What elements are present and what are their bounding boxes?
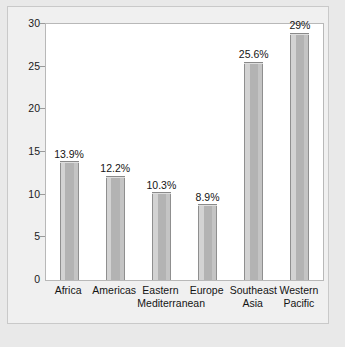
x-axis-category-label-line1: Eastern — [142, 284, 178, 296]
bar-body — [198, 204, 217, 280]
x-axis-category-label-line2: Asia — [230, 297, 276, 310]
x-axis-category-labels: AfricaAmericasEasternMediterraneanEurope… — [45, 284, 324, 324]
x-axis-category-label: Europe — [184, 284, 230, 297]
bar-value-label: 8.9% — [196, 192, 220, 203]
x-axis-category-label-line1: Western — [279, 284, 318, 296]
bar: 29% — [290, 33, 309, 280]
x-axis-category-label-line2: Pacific — [276, 297, 322, 310]
bar-facet-right — [166, 192, 171, 280]
bar-value-label: 25.6% — [239, 49, 269, 60]
bar-facet-mid — [250, 62, 258, 280]
x-axis-category-label: Africa — [45, 284, 91, 297]
bar-body — [152, 192, 171, 280]
figure-frame: 051015202530 13.9%12.2%10.3%8.9%25.6%29%… — [7, 6, 329, 324]
bar-facet-right — [120, 176, 125, 280]
bar-top-cap — [290, 33, 309, 35]
y-axis-tick-labels: 051015202530 — [10, 23, 40, 281]
bar-facet-mid — [296, 33, 304, 280]
bar-value-label: 12.2% — [100, 163, 130, 174]
bar: 25.6% — [244, 62, 263, 280]
bar-facet-mid — [158, 192, 166, 280]
chart-figure: 051015202530 13.9%12.2%10.3%8.9%25.6%29%… — [0, 0, 345, 347]
x-axis-category-label: WesternPacific — [276, 284, 322, 309]
x-axis-category-label: SoutheastAsia — [230, 284, 276, 309]
x-axis-category-label-line1: Africa — [55, 284, 82, 296]
bars-layer: 13.9%12.2%10.3%8.9%25.6%29% — [46, 24, 323, 280]
x-axis-category-label-line1: Europe — [190, 284, 224, 296]
bar-top-cap — [244, 62, 263, 64]
bar-body — [290, 33, 309, 280]
bar: 10.3% — [152, 192, 171, 280]
x-axis-category-label-line1: Americas — [92, 284, 136, 296]
bar-top-cap — [152, 192, 171, 194]
bar-top-cap — [60, 161, 79, 163]
bar-facet-mid — [65, 161, 73, 280]
bar-facet-mid — [111, 176, 119, 280]
bar-body — [244, 62, 263, 280]
bar-top-cap — [198, 204, 217, 206]
bar-top-cap — [106, 176, 125, 178]
plot-area: 13.9%12.2%10.3%8.9%25.6%29% — [45, 23, 324, 281]
bar-value-label: 10.3% — [147, 180, 177, 191]
bar: 12.2% — [106, 176, 125, 280]
bar-value-label: 13.9% — [54, 149, 84, 160]
bar-body — [106, 176, 125, 280]
x-axis-category-label-line2: Mediterranean — [137, 297, 183, 310]
x-axis-category-label: EasternMediterranean — [137, 284, 183, 309]
bar-facet-right — [212, 204, 217, 280]
bar-facet-right — [74, 161, 79, 280]
bar-value-label: 29% — [289, 20, 310, 31]
x-axis-category-label-line1: Southeast — [230, 284, 277, 296]
x-axis-category-label: Americas — [91, 284, 137, 297]
bar-facet-right — [258, 62, 263, 280]
bar-facet-right — [304, 33, 309, 280]
bar-body — [60, 161, 79, 280]
bar: 13.9% — [60, 161, 79, 280]
bar: 8.9% — [198, 204, 217, 280]
bar-facet-mid — [204, 204, 212, 280]
